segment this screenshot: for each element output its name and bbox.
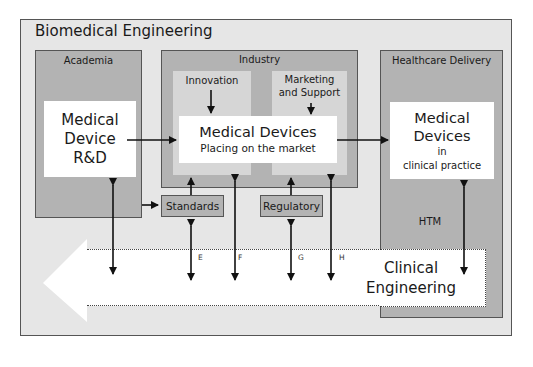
link-label-f: F <box>238 253 242 262</box>
link-label-h: H <box>339 253 345 262</box>
connector-arrows <box>0 0 533 367</box>
link-label-g: G <box>298 253 304 262</box>
link-label-e: E <box>198 253 203 262</box>
